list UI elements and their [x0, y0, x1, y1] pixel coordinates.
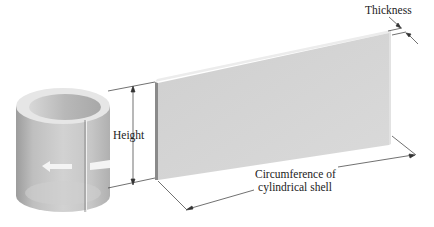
unrolled-panel	[155, 30, 391, 180]
circumference-label-line2: cylindrical shell	[255, 182, 335, 194]
circumference-label-line1: Circumference of	[255, 169, 335, 181]
height-label: Height	[113, 130, 144, 142]
cylindrical-shell-diagram: Height Thickness Circumference of cylind…	[0, 0, 434, 227]
diagram-canvas	[0, 0, 434, 227]
thickness-label: Thickness	[365, 5, 412, 17]
thickness-dimension	[388, 17, 418, 44]
cylinder	[16, 88, 110, 212]
